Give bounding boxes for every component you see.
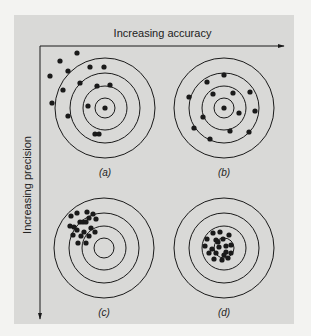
shot-dot xyxy=(210,91,215,96)
shot-dot xyxy=(57,58,62,63)
shot-dot xyxy=(206,250,211,255)
shot-dot xyxy=(92,229,97,234)
shot-dot xyxy=(68,213,73,218)
shot-dot xyxy=(221,72,226,77)
shot-dot xyxy=(70,232,75,237)
shot-dot xyxy=(85,103,90,108)
shot-dot xyxy=(60,87,65,92)
shot-dot xyxy=(202,243,207,248)
shot-dot xyxy=(96,131,101,136)
shot-dot xyxy=(90,211,95,216)
shot-dot xyxy=(215,239,220,244)
shot-dot xyxy=(225,255,230,260)
target-d xyxy=(174,198,274,298)
shot-dot xyxy=(78,233,83,238)
shot-dot xyxy=(204,79,209,84)
shot-dot xyxy=(230,90,235,95)
shot-dot xyxy=(77,80,82,85)
shot-dot xyxy=(93,216,98,221)
shot-dot xyxy=(207,136,212,141)
shot-dot xyxy=(236,110,241,115)
shot-dot xyxy=(223,249,228,254)
shot-dot xyxy=(226,232,231,237)
shot-dot xyxy=(94,83,99,88)
accuracy-precision-diagram xyxy=(0,0,311,336)
shot-dot xyxy=(67,223,72,228)
shot-dot xyxy=(246,129,251,134)
shot-dot xyxy=(83,219,88,224)
caption-b: (b) xyxy=(218,167,230,178)
shot-dot xyxy=(247,89,252,94)
shot-dot xyxy=(86,233,91,238)
shot-dot xyxy=(88,225,93,230)
shot-dot xyxy=(74,227,79,232)
shot-dot xyxy=(101,64,106,69)
shot-dot xyxy=(74,210,79,215)
shot-dot xyxy=(107,82,112,87)
shot-dot xyxy=(217,229,222,234)
shot-dot xyxy=(186,94,191,99)
shot-dot xyxy=(191,125,196,130)
shot-dot xyxy=(65,113,70,118)
shot-dot xyxy=(83,240,88,245)
shot-dot xyxy=(204,236,209,241)
shot-dot xyxy=(84,209,89,214)
shot-dot xyxy=(219,257,224,262)
caption-c: (c) xyxy=(98,307,110,318)
shot-dot xyxy=(252,108,257,113)
shot-dot xyxy=(216,244,221,249)
shot-dot xyxy=(87,64,92,69)
shot-dot xyxy=(210,230,215,235)
shot-dot xyxy=(227,128,232,133)
shot-dot xyxy=(213,250,218,255)
caption-a: (a) xyxy=(99,167,111,178)
caption-d: (d) xyxy=(218,307,230,318)
target-c xyxy=(54,198,154,298)
shot-dot xyxy=(74,50,79,55)
shot-dot xyxy=(220,236,225,241)
target-b xyxy=(174,58,274,158)
target-ring xyxy=(82,226,126,270)
target-ring xyxy=(202,226,246,270)
shot-dot xyxy=(47,73,52,78)
shot-dot xyxy=(200,114,205,119)
shot-dot xyxy=(49,100,54,105)
target-ring xyxy=(189,213,259,283)
shot-dot xyxy=(211,256,216,261)
shot-dot xyxy=(223,243,228,248)
shot-dot xyxy=(228,242,233,247)
target-ring xyxy=(94,238,114,258)
shot-dot xyxy=(65,68,70,73)
shot-dot xyxy=(221,105,226,110)
target-a xyxy=(47,50,155,158)
shot-dot xyxy=(75,240,80,245)
shot-dot xyxy=(228,250,233,255)
shot-dot xyxy=(102,105,107,110)
